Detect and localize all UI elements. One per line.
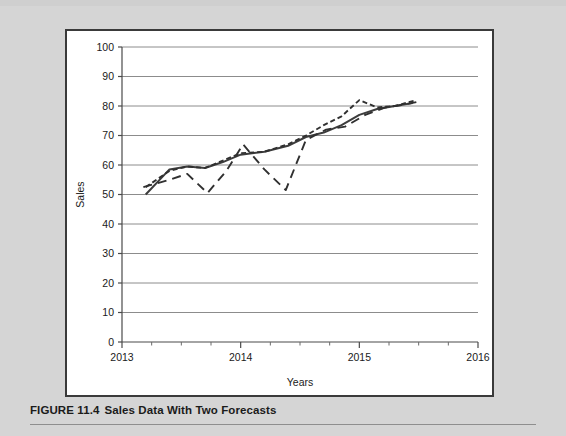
y-axis-title: Sales bbox=[74, 181, 86, 207]
figure-number: FIGURE 11.4 bbox=[30, 404, 100, 416]
caption-divider bbox=[30, 424, 536, 425]
figure-title: Sales Data With Two Forecasts bbox=[105, 404, 277, 416]
y-tick-label: 0 bbox=[108, 336, 114, 348]
y-tick-label: 80 bbox=[102, 100, 114, 112]
x-axis-tick-labels: 2013201420152016 bbox=[110, 351, 490, 363]
figure-caption: FIGURE 11.4Sales Data With Two Forecasts bbox=[30, 404, 540, 416]
y-tick-label: 100 bbox=[96, 41, 114, 53]
chart-panel: 0102030405060708090100 2013201420152016 … bbox=[65, 29, 494, 397]
y-tick-label: 60 bbox=[102, 159, 114, 171]
y-axis-tick-labels: 0102030405060708090100 bbox=[96, 41, 114, 348]
x-axis-ticks bbox=[122, 342, 478, 348]
y-tick-label: 90 bbox=[102, 70, 114, 82]
y-tick-label: 10 bbox=[102, 306, 114, 318]
x-axis-title: Years bbox=[287, 376, 313, 388]
gridlines bbox=[122, 47, 478, 313]
x-tick-label: 2016 bbox=[466, 351, 490, 363]
y-tick-label: 70 bbox=[102, 129, 114, 141]
figure-page: 0102030405060708090100 2013201420152016 … bbox=[0, 0, 566, 436]
series-line-sales-rep bbox=[146, 100, 417, 187]
x-tick-label: 2015 bbox=[348, 351, 372, 363]
y-tick-label: 50 bbox=[102, 188, 114, 200]
x-tick-label: 2014 bbox=[229, 351, 253, 363]
sales-forecast-line-chart: 0102030405060708090100 2013201420152016 … bbox=[67, 31, 492, 395]
y-tick-label: 20 bbox=[102, 277, 114, 289]
x-tick-label: 2013 bbox=[110, 351, 134, 363]
data-series-group bbox=[143, 100, 418, 194]
series-line-sales bbox=[146, 103, 413, 194]
y-tick-label: 30 bbox=[102, 247, 114, 259]
y-tick-label: 40 bbox=[102, 218, 114, 230]
